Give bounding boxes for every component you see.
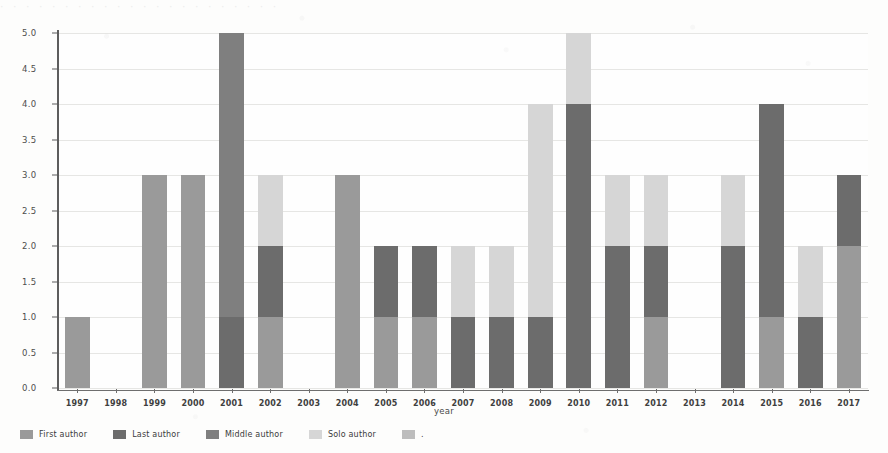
bar-stack[interactable]	[721, 175, 746, 388]
bar-group[interactable]: 2006	[405, 33, 444, 388]
legend-label: First author	[39, 430, 87, 439]
bar-segment[interactable]	[759, 104, 784, 317]
legend-item[interactable]: Solo author	[309, 430, 376, 439]
bar-stack[interactable]	[644, 175, 669, 388]
x-tick-mark	[347, 389, 348, 393]
chart-legend: First authorLast authorMiddle authorSolo…	[20, 430, 450, 439]
bar-group[interactable]: 2001	[212, 33, 251, 388]
bar-group[interactable]: 2007	[444, 33, 483, 388]
x-tick-label: 2006	[413, 399, 436, 408]
x-tick-label: 2000	[181, 399, 204, 408]
bar-stack[interactable]	[566, 33, 591, 388]
bar-group[interactable]: 2012	[637, 33, 676, 388]
bar-group[interactable]: 2005	[367, 33, 406, 388]
bar-group[interactable]: 2004	[328, 33, 367, 388]
bar-segment[interactable]	[644, 175, 669, 246]
bar-stack[interactable]	[181, 175, 206, 388]
bar-stack[interactable]	[798, 246, 823, 388]
x-tick-label: 2001	[220, 399, 243, 408]
bar-segment[interactable]	[566, 33, 591, 104]
bar-stack[interactable]	[374, 246, 399, 388]
legend-item[interactable]: Last author	[113, 430, 180, 439]
bar-group[interactable]: 2009	[521, 33, 560, 388]
x-tick-mark	[154, 389, 155, 393]
bar-segment[interactable]	[489, 317, 514, 388]
bar-group[interactable]: 1997	[58, 33, 97, 388]
bar-segment[interactable]	[759, 317, 784, 388]
bar-segment[interactable]	[412, 246, 437, 317]
bar-segment[interactable]	[258, 175, 283, 246]
bar-segment[interactable]	[528, 104, 553, 317]
x-tick-label: 2008	[490, 399, 513, 408]
bar-segment[interactable]	[65, 317, 90, 388]
x-tick-mark	[270, 389, 271, 393]
bar-group[interactable]: 2013	[675, 33, 714, 388]
bar-segment[interactable]	[721, 246, 746, 388]
bar-segment[interactable]	[566, 104, 591, 388]
bar-stack[interactable]	[412, 246, 437, 388]
bar-stack[interactable]	[258, 175, 283, 388]
bars-container: 1997199819992000200120022003200420052006…	[58, 33, 868, 388]
bar-stack[interactable]	[528, 104, 553, 388]
bar-segment[interactable]	[798, 317, 823, 388]
bar-group[interactable]: 2002	[251, 33, 290, 388]
bar-segment[interactable]	[837, 175, 862, 246]
bar-stack[interactable]	[65, 317, 90, 388]
bar-stack[interactable]	[837, 175, 862, 388]
bar-segment[interactable]	[142, 175, 167, 388]
bar-group[interactable]: 2000	[174, 33, 213, 388]
bar-segment[interactable]	[412, 317, 437, 388]
x-tick-mark	[579, 389, 580, 393]
bar-stack[interactable]	[142, 175, 167, 388]
bar-stack[interactable]	[605, 175, 630, 388]
bar-segment[interactable]	[258, 246, 283, 317]
x-axis-label: year	[0, 406, 888, 416]
bar-segment[interactable]	[374, 246, 399, 317]
bar-group[interactable]: 1998	[97, 33, 136, 388]
x-tick-mark	[232, 389, 233, 393]
bar-group[interactable]: 2015	[752, 33, 791, 388]
x-tick-mark	[810, 389, 811, 393]
bar-group[interactable]: 2017	[830, 33, 869, 388]
x-tick-mark	[309, 389, 310, 393]
bar-stack[interactable]	[335, 175, 360, 388]
bar-segment[interactable]	[644, 317, 669, 388]
bar-segment[interactable]	[528, 317, 553, 388]
bar-stack[interactable]	[451, 246, 476, 388]
bar-group[interactable]: 2016	[791, 33, 830, 388]
x-tick-label: 2011	[606, 399, 629, 408]
bar-group[interactable]: 2014	[714, 33, 753, 388]
legend-item[interactable]: .	[402, 430, 424, 439]
bar-segment[interactable]	[451, 317, 476, 388]
bar-segment[interactable]	[798, 246, 823, 317]
bar-stack[interactable]	[489, 246, 514, 388]
bar-segment[interactable]	[374, 317, 399, 388]
bar-segment[interactable]	[181, 175, 206, 388]
legend-item[interactable]: Middle author	[206, 430, 283, 439]
bar-group[interactable]: 1999	[135, 33, 174, 388]
x-tick-label: 2017	[837, 399, 860, 408]
legend-item[interactable]: First author	[20, 430, 87, 439]
bar-group[interactable]: 2011	[598, 33, 637, 388]
y-tick-label: 1.5	[22, 277, 36, 287]
bar-group[interactable]: 2003	[289, 33, 328, 388]
bar-segment[interactable]	[489, 246, 514, 317]
x-tick-mark	[502, 389, 503, 393]
bar-segment[interactable]	[837, 246, 862, 388]
bar-segment[interactable]	[644, 246, 669, 317]
bar-stack[interactable]	[759, 104, 784, 388]
bar-segment[interactable]	[219, 33, 244, 317]
bar-stack[interactable]	[219, 33, 244, 388]
x-tick-label: 1998	[104, 399, 127, 408]
bar-segment[interactable]	[605, 246, 630, 388]
bar-segment[interactable]	[335, 175, 360, 388]
bar-segment[interactable]	[219, 317, 244, 388]
bar-group[interactable]: 2010	[560, 33, 599, 388]
bar-segment[interactable]	[451, 246, 476, 317]
x-tick-label: 2012	[644, 399, 667, 408]
bar-segment[interactable]	[258, 317, 283, 388]
x-tick-mark	[772, 389, 773, 393]
bar-segment[interactable]	[721, 175, 746, 246]
bar-segment[interactable]	[605, 175, 630, 246]
bar-group[interactable]: 2008	[482, 33, 521, 388]
